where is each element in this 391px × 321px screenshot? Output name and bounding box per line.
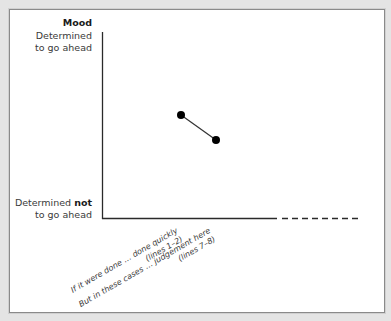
data-point-1	[177, 111, 185, 119]
series-line	[181, 115, 216, 140]
chart-plot	[0, 0, 391, 321]
data-point-2	[212, 136, 220, 144]
